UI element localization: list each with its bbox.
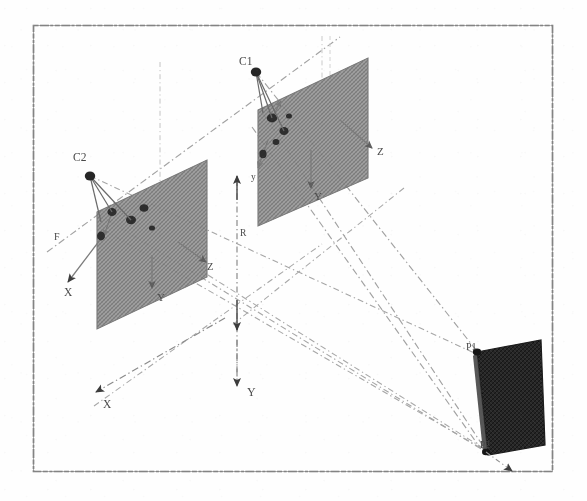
label-focal-f: F: [54, 231, 60, 242]
label-left-plane-x: X: [64, 286, 73, 298]
label-right-plane-y: Y: [314, 190, 322, 202]
label-world-y: Y: [247, 385, 256, 399]
label-right-plane-z: Z: [377, 145, 384, 157]
label-left-plane-z: Z: [207, 261, 213, 272]
label-camera-c1: C1: [239, 55, 253, 67]
label-object-p1: P1: [466, 341, 477, 352]
label-camera-c2: C2: [73, 151, 87, 163]
label-world-x: X: [103, 398, 112, 410]
stereo-geometry-diagram: C1 C2 Z Y y Z Y X F X Y R P1 P2: [0, 0, 587, 501]
camera-center-c2-dot: [85, 171, 95, 180]
label-object-p2: P2: [480, 440, 490, 450]
camera-center-c1-dot: [251, 67, 261, 76]
figure-root: C1 C2 Z Y y Z Y X F X Y R P1 P2: [0, 0, 587, 501]
label-left-plane-y: Y: [157, 291, 165, 303]
label-right-plane-small-y: y: [251, 172, 256, 182]
label-baseline-measure: R: [240, 228, 247, 238]
